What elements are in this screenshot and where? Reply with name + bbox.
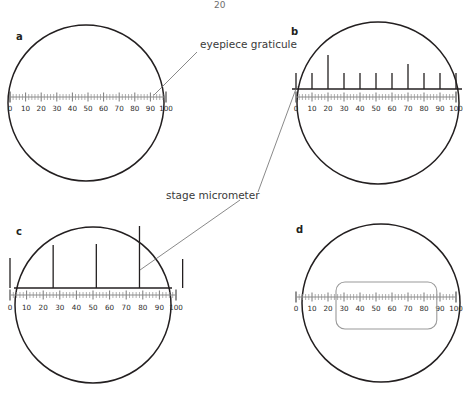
annotation-label-stage-micrometer: stage micrometer [166, 189, 260, 201]
stage-micrometer-b [292, 55, 462, 89]
panel-letter-b: b [291, 26, 298, 37]
graticule-label-a-90: 90 [146, 104, 156, 113]
stage-micrometer-c [10, 226, 183, 288]
graticule-label-b-50: 50 [371, 104, 381, 113]
graticule-label-d-80: 80 [419, 304, 429, 313]
graticule-label-b-70: 70 [403, 104, 413, 113]
graticule-label-a-50: 50 [83, 104, 93, 113]
graticule-label-c-50: 50 [88, 303, 98, 312]
leader-line-stage-micrometer-1 [140, 200, 240, 270]
leader-line-eyepiece-graticule-0 [154, 52, 197, 95]
graticule-label-b-80: 80 [419, 104, 429, 113]
graticule-label-c-20: 20 [39, 303, 49, 312]
eyepiece-graticule-d: 0102030405060708090100 [294, 292, 464, 314]
graticule-label-d-40: 40 [355, 304, 365, 313]
field-of-view-circle-a [8, 25, 164, 181]
graticule-label-a-60: 60 [99, 104, 109, 113]
graticule-label-a-100: 100 [159, 104, 173, 113]
graticule-label-d-100: 100 [449, 304, 463, 313]
graticule-label-b-30: 30 [339, 104, 349, 113]
field-of-view-circle-b [297, 22, 459, 184]
eyepiece-graticule-c: 0102030405060708090100 [8, 290, 184, 313]
panel-letter-a: a [16, 31, 23, 42]
graticule-label-b-10: 10 [307, 104, 317, 113]
eyepiece-graticule-b: 0102030405060708090100 [294, 92, 464, 114]
graticule-label-d-20: 20 [323, 304, 333, 313]
graticule-label-c-10: 10 [22, 303, 32, 312]
graticule-label-c-100: 100 [169, 303, 183, 312]
graticule-label-c-60: 60 [105, 303, 115, 312]
graticule-label-b-90: 90 [435, 104, 445, 113]
graticule-label-a-0: 0 [8, 104, 13, 113]
panel-letter-c: c [16, 226, 22, 237]
graticule-label-b-100: 100 [449, 104, 463, 113]
micrometer-calibration-figure: 20a0102030405060708090100b01020304050607… [0, 0, 469, 406]
panel-d: d0102030405060708090100 [294, 224, 464, 382]
graticule-label-a-30: 30 [52, 104, 62, 113]
graticule-label-d-60: 60 [387, 304, 397, 313]
graticule-label-b-60: 60 [387, 104, 397, 113]
graticule-label-d-50: 50 [371, 304, 381, 313]
graticule-label-a-70: 70 [115, 104, 125, 113]
graticule-label-c-30: 30 [55, 303, 65, 312]
graticule-label-d-70: 70 [403, 304, 413, 313]
page-number: 20 [214, 0, 226, 10]
graticule-label-d-30: 30 [339, 304, 349, 313]
graticule-label-c-90: 90 [155, 303, 165, 312]
figure-root: 20a0102030405060708090100b01020304050607… [0, 0, 469, 406]
graticule-label-a-40: 40 [68, 104, 78, 113]
graticule-label-d-0: 0 [294, 304, 299, 313]
graticule-label-b-40: 40 [355, 104, 365, 113]
panel-a: a0102030405060708090100 [8, 25, 174, 181]
leader-line-stage-micrometer-0 [258, 86, 297, 192]
panel-c: c0102030405060708090100 [8, 226, 184, 383]
graticule-label-c-70: 70 [122, 303, 132, 312]
graticule-label-c-40: 40 [72, 303, 82, 312]
panel-letter-d: d [296, 224, 303, 235]
panel-b: b0102030405060708090100 [291, 22, 463, 184]
graticule-label-b-0: 0 [294, 104, 299, 113]
annotation-eyepiece-graticule: eyepiece graticule [154, 38, 297, 95]
graticule-label-c-80: 80 [138, 303, 148, 312]
graticule-label-b-20: 20 [323, 104, 333, 113]
eyepiece-graticule-a: 0102030405060708090100 [8, 92, 174, 114]
annotation-label-eyepiece-graticule: eyepiece graticule [200, 38, 297, 50]
graticule-label-a-10: 10 [21, 104, 31, 113]
graticule-label-c-0: 0 [8, 303, 13, 312]
graticule-label-d-10: 10 [307, 304, 317, 313]
graticule-label-a-20: 20 [37, 104, 47, 113]
graticule-label-a-80: 80 [130, 104, 140, 113]
